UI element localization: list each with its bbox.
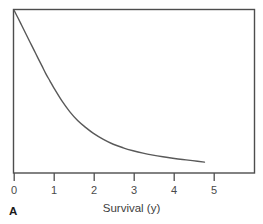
x-tick-label-0: 0: [4, 184, 24, 196]
panel-label-a: A: [9, 205, 17, 218]
x-axis-title: Survival (y): [0, 202, 263, 215]
plot-frame-box: [14, 10, 255, 174]
x-tick-label-3: 3: [124, 184, 144, 196]
x-tick-label-5: 5: [204, 184, 224, 196]
figure-panel-a: 0 1 2 3 4 5 Survival (y) A: [0, 0, 263, 224]
x-axis-ticks: [14, 173, 214, 181]
x-tick-label-4: 4: [164, 184, 184, 196]
x-tick-label-1: 1: [44, 184, 64, 196]
x-tick-label-2: 2: [84, 184, 104, 196]
